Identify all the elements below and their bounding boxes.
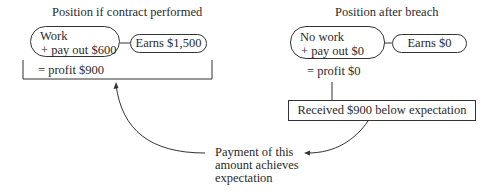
payment-note: Payment of this amount achieves expectat… bbox=[215, 146, 299, 185]
left-panel-title: Position if contract performed bbox=[52, 5, 198, 20]
shortfall-box: Received $900 below expectation bbox=[288, 100, 476, 121]
right-activity-pill: No work + pay out $0 bbox=[290, 26, 385, 59]
left-activity-line1: Work bbox=[40, 29, 119, 43]
arrowhead-up-icon bbox=[114, 82, 119, 89]
left-curve-arrow bbox=[116, 85, 205, 153]
left-profit-text: = profit $900 bbox=[38, 63, 104, 78]
arrowhead-left-icon bbox=[304, 151, 310, 156]
right-earnings-pill: Earns $0 bbox=[392, 34, 467, 53]
left-activity-line2: + pay out $600 bbox=[41, 43, 119, 57]
right-panel-title: Position after breach bbox=[335, 5, 435, 20]
left-earnings-pill: Earns $1,500 bbox=[130, 34, 207, 53]
right-activity-line2: + pay out $0 bbox=[301, 44, 384, 58]
left-activity-pill: Work + pay out $600 bbox=[30, 26, 120, 57]
right-curve-arrow bbox=[308, 121, 368, 153]
right-activity-line1: No work bbox=[300, 30, 384, 44]
payment-note-line3: expectation bbox=[215, 172, 299, 185]
right-profit-text: = profit $0 bbox=[307, 64, 361, 79]
